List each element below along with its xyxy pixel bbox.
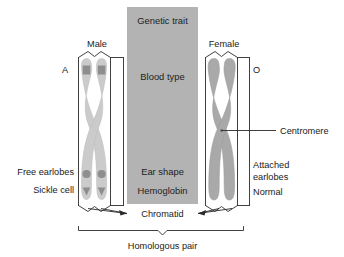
male-marker-ear-shape-right bbox=[98, 170, 106, 178]
male-allele-label: A bbox=[62, 65, 69, 75]
chromatid-arrow-right bbox=[198, 210, 206, 216]
male-marker-blood-type-left bbox=[83, 66, 91, 75]
male-marker-ear-shape-left bbox=[82, 170, 90, 178]
chromatid-arrow-left bbox=[119, 210, 127, 216]
male-marker-blood-type-right bbox=[98, 66, 106, 75]
female-label: Female bbox=[209, 39, 240, 49]
female-allele-label: O bbox=[253, 65, 260, 75]
homologous-pair-label: Homologous pair bbox=[128, 241, 197, 251]
female-bracket-top-notch bbox=[206, 52, 238, 58]
female-trait-attached: Attached bbox=[253, 160, 289, 170]
female-trait-normal: Normal bbox=[253, 187, 283, 197]
panel-row-ear-shape: Ear shape bbox=[141, 166, 184, 177]
homologous-pair-bracket bbox=[79, 227, 244, 236]
chromatid-label: Chromatid bbox=[141, 209, 183, 219]
chromosome-diagram: Genetic trait Blood type Ear shape Hemog… bbox=[0, 0, 344, 257]
panel-row-hemoglobin: Hemoglobin bbox=[137, 185, 187, 196]
male-trait-free-earlobes: Free earlobes bbox=[17, 167, 74, 177]
panel-row-genetic-trait: Genetic trait bbox=[137, 15, 188, 26]
male-trait-sickle-cell: Sickle cell bbox=[33, 185, 74, 195]
male-bracket-top-notch bbox=[79, 52, 111, 58]
panel-row-blood-type: Blood type bbox=[140, 71, 184, 82]
male-label: Male bbox=[87, 39, 107, 49]
female-trait-earlobes: earlobes bbox=[253, 172, 289, 182]
centromere-label: Centromere bbox=[280, 126, 329, 136]
